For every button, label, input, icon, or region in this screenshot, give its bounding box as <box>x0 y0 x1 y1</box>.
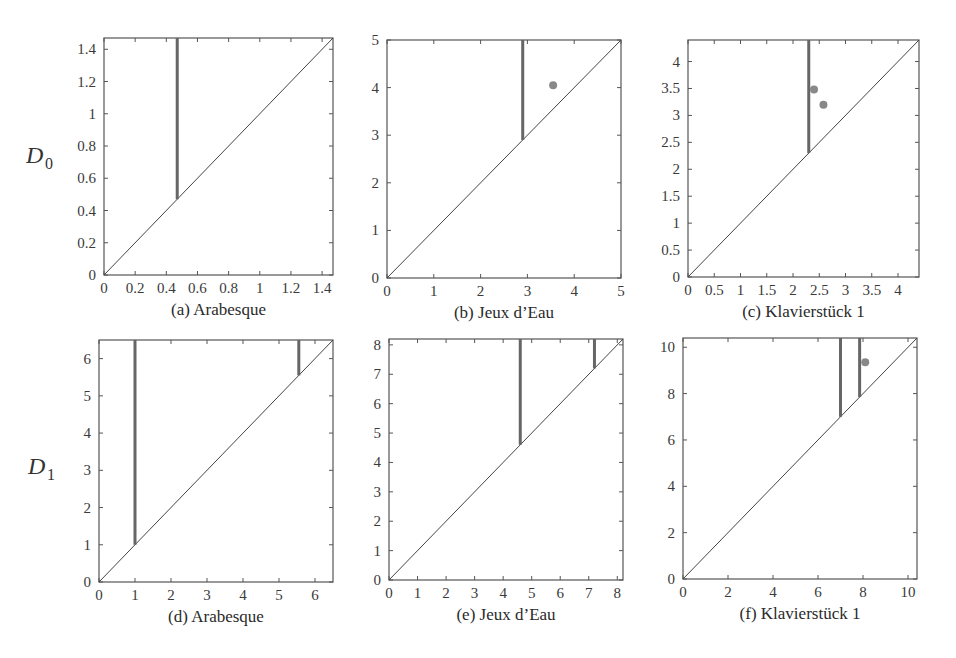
y-tick-label: 0 <box>372 270 380 286</box>
row-label-d1-sub: 1 <box>47 466 55 483</box>
x-tick-label: 0 <box>385 585 393 601</box>
x-tick-label: 4 <box>894 282 902 298</box>
persistence-diagram-figure: D 0 D 1 00.20.40.60.811.21.400.20.40.60.… <box>0 0 956 658</box>
x-tick-label: 2 <box>442 585 450 601</box>
y-tick-label: 3 <box>372 127 380 143</box>
x-tick-label: 0.8 <box>219 280 238 296</box>
y-tick-label: 0 <box>89 267 97 283</box>
panel-caption: (b) Jeux d’Eau <box>454 303 555 322</box>
x-tick-label: 0 <box>684 282 692 298</box>
y-tick-label: 4 <box>84 425 92 441</box>
y-tick-label: 1 <box>374 543 382 559</box>
x-tick-label: 2 <box>167 587 175 603</box>
y-tick-label: 2 <box>372 175 380 191</box>
y-tick-label: 0.6 <box>77 170 96 186</box>
persistence-point <box>549 81 557 89</box>
row-label-d1: D 1 <box>27 453 55 483</box>
diagonal-line <box>389 339 623 580</box>
y-tick-label: 4 <box>668 478 676 494</box>
x-tick-label: 0.5 <box>705 282 724 298</box>
x-tick-label: 0 <box>95 587 103 603</box>
y-tick-label: 2 <box>668 525 676 541</box>
diagonal-line <box>104 38 333 275</box>
y-tick-label: 6 <box>374 396 382 412</box>
x-tick-label: 3 <box>842 282 850 298</box>
y-tick-label: 0.2 <box>77 235 96 251</box>
y-tick-label: 0.5 <box>661 242 680 258</box>
panel-e: 012345678012345678(e) Jeux d’Eau <box>374 337 624 624</box>
x-tick-label: 3 <box>203 587 211 603</box>
x-tick-label: 1 <box>414 585 422 601</box>
diagonal-line <box>688 40 919 277</box>
panel-caption: (a) Arabesque <box>171 300 266 319</box>
persistence-point <box>819 101 827 109</box>
x-tick-label: 7 <box>585 585 593 601</box>
y-tick-label: 3 <box>84 462 92 478</box>
x-tick-label: 2.5 <box>810 282 829 298</box>
x-tick-label: 5 <box>617 283 625 299</box>
x-tick-label: 4 <box>570 283 578 299</box>
panel-caption: (c) Klavierstück 1 <box>742 302 865 321</box>
x-tick-label: 1 <box>256 280 264 296</box>
x-tick-label: 4 <box>499 585 507 601</box>
x-tick-label: 2 <box>724 584 732 600</box>
x-tick-label: 3 <box>524 283 532 299</box>
y-tick-label: 0.8 <box>77 138 96 154</box>
x-tick-label: 1 <box>131 587 139 603</box>
x-tick-label: 1 <box>430 283 438 299</box>
x-tick-label: 1.5 <box>757 282 776 298</box>
panel-d: 01234560123456(d) Arabesque <box>84 340 334 626</box>
panel-a: 00.20.40.60.811.21.400.20.40.60.811.21.4… <box>77 38 333 319</box>
x-tick-label: 6 <box>556 585 564 601</box>
row-label-d0-main: D <box>25 142 43 168</box>
x-tick-label: 0 <box>679 584 687 600</box>
y-tick-label: 4 <box>374 454 382 470</box>
y-tick-label: 0 <box>673 269 681 285</box>
x-tick-label: 5 <box>528 585 536 601</box>
x-tick-label: 1.2 <box>282 280 301 296</box>
y-tick-label: 0 <box>668 571 676 587</box>
panel-b: 012345012345(b) Jeux d’Eau <box>372 32 625 322</box>
x-tick-label: 1.4 <box>313 280 332 296</box>
row-label-d1-main: D <box>27 453 45 479</box>
y-tick-label: 1 <box>673 215 681 231</box>
y-tick-label: 5 <box>372 32 380 48</box>
x-tick-label: 8 <box>859 584 867 600</box>
y-tick-label: 0.4 <box>77 203 96 219</box>
y-tick-label: 1 <box>372 222 380 238</box>
y-tick-label: 1.4 <box>77 41 96 57</box>
panel-c: 00.511.522.533.5400.511.522.533.54(c) Kl… <box>661 40 919 321</box>
y-tick-label: 3 <box>374 484 382 500</box>
x-tick-label: 2 <box>789 282 797 298</box>
y-tick-label: 4 <box>673 54 681 70</box>
x-tick-label: 2 <box>477 283 485 299</box>
y-tick-label: 0 <box>84 574 92 590</box>
x-tick-label: 3 <box>471 585 479 601</box>
y-tick-label: 2 <box>673 161 681 177</box>
y-tick-label: 3 <box>673 107 681 123</box>
panel-caption: (e) Jeux d’Eau <box>456 605 556 624</box>
panel-caption: (f) Klavierstück 1 <box>740 604 861 623</box>
x-tick-label: 1 <box>737 282 745 298</box>
x-tick-label: 8 <box>614 585 622 601</box>
y-tick-label: 7 <box>374 366 382 382</box>
panels: 00.20.40.60.811.21.400.20.40.60.811.21.4… <box>77 32 919 626</box>
x-tick-label: 0 <box>100 280 108 296</box>
persistence-point <box>810 86 818 94</box>
y-tick-label: 8 <box>374 337 382 353</box>
x-tick-label: 4 <box>769 584 777 600</box>
row-label-d0: D 0 <box>25 142 53 172</box>
diagonal-line <box>387 40 621 278</box>
panel-f: 02468100246810(f) Klavierstück 1 <box>660 338 917 623</box>
x-tick-label: 6 <box>814 584 822 600</box>
y-tick-label: 8 <box>668 386 676 402</box>
x-tick-label: 3.5 <box>862 282 881 298</box>
y-tick-label: 1 <box>89 106 97 122</box>
panel-caption: (d) Arabesque <box>168 607 264 626</box>
y-tick-label: 1.5 <box>661 188 680 204</box>
x-tick-label: 5 <box>275 587 283 603</box>
x-tick-label: 0.6 <box>188 280 207 296</box>
y-tick-label: 2.5 <box>661 134 680 150</box>
persistence-point <box>861 358 869 366</box>
y-tick-label: 5 <box>374 425 382 441</box>
